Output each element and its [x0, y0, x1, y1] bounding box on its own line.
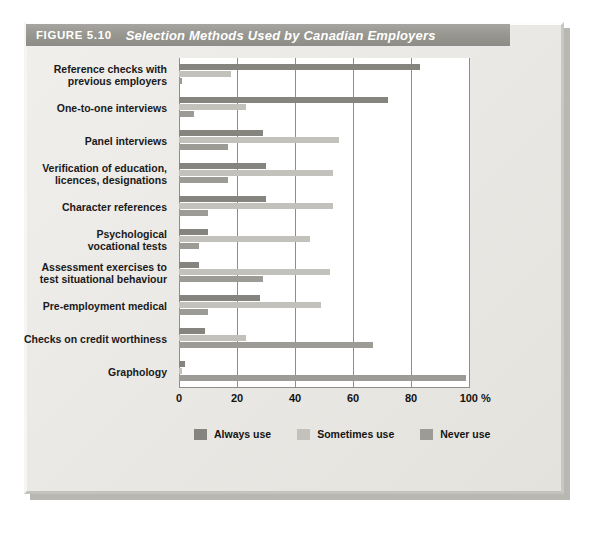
category-label-line: licences, designations	[22, 175, 167, 187]
bar-group	[179, 223, 469, 256]
bar-2	[179, 111, 194, 117]
legend-swatch-icon	[194, 429, 207, 440]
category-label: Character references	[22, 202, 167, 214]
bar-1	[179, 335, 246, 341]
x-tick-label: 80	[405, 392, 417, 404]
category-label-line: Reference checks with	[22, 64, 167, 76]
category-label-line: Panel interviews	[22, 136, 167, 148]
chart-legend: Always useSometimes useNever use	[194, 426, 524, 442]
bar-2	[179, 276, 263, 282]
bar-2	[179, 309, 208, 315]
category-label: Pre-employment medical	[22, 301, 167, 313]
category-label-line: Character references	[22, 202, 167, 214]
bar-1	[179, 203, 333, 209]
figure-title: Selection Methods Used by Canadian Emplo…	[126, 28, 436, 43]
figure-title-bar: FIGURE 5.10 Selection Methods Used by Ca…	[26, 24, 510, 46]
bar-0	[179, 196, 266, 202]
bar-group	[179, 256, 469, 289]
category-label-line: Graphology	[22, 367, 167, 379]
bar-0	[179, 361, 185, 367]
bar-0	[179, 130, 263, 136]
x-tick-label: 60	[347, 392, 359, 404]
bar-group	[179, 322, 469, 355]
category-label: Checks on credit worthiness	[22, 334, 167, 346]
category-label-line: vocational tests	[22, 241, 167, 253]
figure-container: FIGURE 5.10 Selection Methods Used by Ca…	[0, 0, 598, 533]
bar-1	[179, 368, 182, 374]
bar-0	[179, 328, 205, 334]
category-label: Verification of education,licences, desi…	[22, 163, 167, 186]
category-label: One-to-one interviews	[22, 103, 167, 115]
category-label-line: Psychological	[22, 229, 167, 241]
x-tick-label: 40	[289, 392, 301, 404]
bar-1	[179, 236, 310, 242]
category-label-line: test situational behaviour	[22, 274, 167, 286]
bar-2	[179, 177, 228, 183]
bar-2	[179, 243, 199, 249]
category-label: Reference checks withprevious employers	[22, 64, 167, 87]
bar-1	[179, 170, 333, 176]
x-axis-ticks: 020406080100 %	[179, 392, 519, 408]
legend-item[interactable]: Never use	[420, 428, 490, 440]
bar-group	[179, 157, 469, 190]
category-label-line: previous employers	[22, 76, 167, 88]
category-label: Panel interviews	[22, 136, 167, 148]
bar-2	[179, 78, 182, 84]
bar-1	[179, 269, 330, 275]
bar-0	[179, 229, 208, 235]
bar-2	[179, 210, 208, 216]
bar-1	[179, 104, 246, 110]
bar-0	[179, 64, 420, 70]
legend-label: Sometimes use	[317, 428, 394, 440]
legend-item[interactable]: Sometimes use	[297, 428, 394, 440]
category-label-line: Assessment exercises to	[22, 262, 167, 274]
bar-group	[179, 355, 469, 388]
legend-swatch-icon	[420, 429, 433, 440]
bar-group	[179, 91, 469, 124]
bar-0	[179, 97, 388, 103]
legend-label: Always use	[214, 428, 271, 440]
category-label-line: Pre-employment medical	[22, 301, 167, 313]
bar-2	[179, 342, 373, 348]
bar-group	[179, 190, 469, 223]
category-labels: Reference checks withprevious employersO…	[26, 58, 173, 388]
legend-label: Never use	[440, 428, 490, 440]
legend-item[interactable]: Always use	[194, 428, 271, 440]
category-label: Assessment exercises totest situational …	[22, 262, 167, 285]
chart-area: Reference checks withprevious employersO…	[26, 58, 526, 458]
bar-1	[179, 71, 231, 77]
x-tick-label: 100 %	[460, 392, 491, 404]
bar-group	[179, 58, 469, 91]
bar-2	[179, 375, 466, 381]
bar-group	[179, 289, 469, 322]
bar-0	[179, 295, 260, 301]
bar-1	[179, 137, 339, 143]
bar-group	[179, 124, 469, 157]
category-label-line: Checks on credit worthiness	[22, 334, 167, 346]
bar-0	[179, 262, 199, 268]
bar-1	[179, 302, 321, 308]
category-label-line: Verification of education,	[22, 163, 167, 175]
category-label: Psychologicalvocational tests	[22, 229, 167, 252]
x-tick-label: 0	[176, 392, 182, 404]
category-label: Graphology	[22, 367, 167, 379]
gridline-100	[469, 58, 470, 388]
x-tick-label: 20	[231, 392, 243, 404]
legend-swatch-icon	[297, 429, 310, 440]
bar-2	[179, 144, 228, 150]
plot-area	[179, 58, 469, 388]
figure-number: FIGURE 5.10	[36, 29, 112, 41]
bar-0	[179, 163, 266, 169]
category-label-line: One-to-one interviews	[22, 103, 167, 115]
